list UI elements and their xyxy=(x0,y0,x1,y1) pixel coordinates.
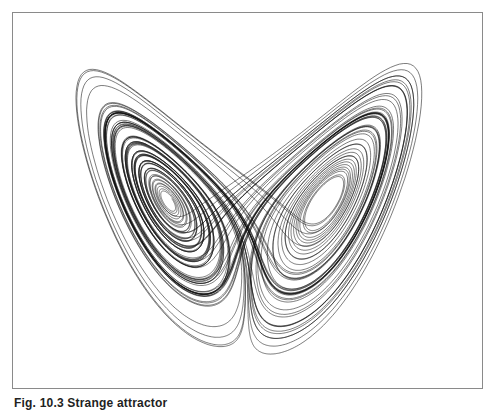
attractor-trajectory xyxy=(76,64,422,355)
strange-attractor-plot xyxy=(13,13,482,388)
figure-frame xyxy=(12,12,483,389)
figure-caption: Fig. 10.3 Strange attractor xyxy=(14,396,167,410)
